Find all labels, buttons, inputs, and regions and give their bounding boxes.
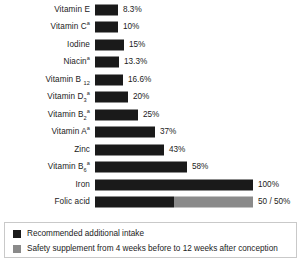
- bar: [95, 109, 138, 120]
- bar-segment-secondary: [174, 197, 253, 208]
- chart-row: Vitamin B 1216.6%: [0, 71, 305, 89]
- bar-segment-primary: [95, 22, 118, 33]
- category-label: Vitamin E: [0, 6, 90, 14]
- bar: [95, 39, 124, 50]
- bar-value-label: 25%: [143, 111, 159, 119]
- chart-row: Vitamin Aa37%: [0, 124, 305, 142]
- bar-segment-primary: [95, 74, 123, 85]
- bar: [95, 22, 118, 33]
- category-label-superscript: a: [87, 160, 90, 166]
- bar-value-label: 58%: [192, 163, 208, 171]
- category-label-superscript: a: [87, 55, 90, 61]
- category-label-subscript: 12: [84, 79, 90, 85]
- category-label-superscript: a: [87, 125, 90, 131]
- bar-value-label: 15%: [129, 41, 145, 49]
- category-label: Vitamin B2a: [0, 111, 90, 119]
- bar-value-label: 50 / 50%: [258, 198, 290, 206]
- bar-value-label: 37%: [160, 128, 176, 136]
- chart-row: Vitamin E8.3%: [0, 1, 305, 19]
- category-label-subscript: 2: [84, 114, 87, 120]
- bar-value-label: 16.6%: [128, 76, 151, 84]
- chart-row: Vitamin B6a58%: [0, 159, 305, 177]
- category-label-superscript: a: [87, 90, 90, 96]
- bar: [95, 127, 155, 138]
- category-label: Iron: [0, 181, 90, 189]
- category-label-superscript: a: [87, 108, 90, 114]
- chart-row: Iodine15%: [0, 36, 305, 54]
- bar-segment-primary: [95, 179, 253, 190]
- legend-label: Safety supplement from 4 weeks before to…: [27, 245, 278, 253]
- legend-swatch-primary: [13, 230, 21, 238]
- bar: [95, 162, 187, 173]
- bar-value-label: 20%: [133, 93, 149, 101]
- legend-swatch-secondary: [13, 245, 21, 253]
- bar: [95, 57, 119, 68]
- bar-chart: Vitamin E8.3%Vitamin Ca10%Iodine15%Niaci…: [0, 0, 305, 272]
- category-label: Iodine: [0, 41, 90, 49]
- category-label: Vitamin Aa: [0, 128, 90, 136]
- bar-segment-primary: [95, 197, 174, 208]
- category-label-subscript: 3: [84, 97, 87, 103]
- category-label: Niacina: [0, 58, 90, 66]
- category-label: Vitamin B6a: [0, 163, 90, 171]
- chart-row: Zinc43%: [0, 141, 305, 159]
- category-label: Folic acid: [0, 198, 90, 206]
- chart-legend: Recommended additional intakeSafety supp…: [4, 222, 297, 258]
- chart-row: Vitamin D3a20%: [0, 89, 305, 107]
- bar: [95, 92, 128, 103]
- legend-item: Recommended additional intake: [13, 227, 296, 241]
- category-label: Zinc: [0, 146, 90, 154]
- bar-segment-primary: [95, 144, 164, 155]
- bar-value-label: 8.3%: [123, 6, 142, 14]
- bar: [95, 74, 123, 85]
- bar-value-label: 43%: [169, 146, 185, 154]
- bar-segment-primary: [95, 127, 155, 138]
- chart-row: Folic acid50 / 50%: [0, 194, 305, 212]
- bar-segment-primary: [95, 109, 138, 120]
- bar: [95, 179, 253, 190]
- category-label: Vitamin Ca: [0, 23, 90, 31]
- chart-row: Vitamin Ca10%: [0, 19, 305, 37]
- chart-row: Iron100%: [0, 176, 305, 194]
- category-label-superscript: a: [87, 20, 90, 26]
- chart-row: Niacina13.3%: [0, 54, 305, 72]
- legend-item: Safety supplement from 4 weeks before to…: [13, 242, 296, 256]
- category-label: Vitamin D3a: [0, 93, 90, 101]
- bar-segment-primary: [95, 162, 187, 173]
- category-label: Vitamin B 12: [0, 76, 90, 84]
- chart-row: Vitamin B2a25%: [0, 106, 305, 124]
- bar-value-label: 13.3%: [124, 58, 147, 66]
- legend-label: Recommended additional intake: [27, 230, 144, 238]
- category-label-subscript: 6: [84, 167, 87, 173]
- bar: [95, 197, 253, 208]
- bar: [95, 144, 164, 155]
- bar-segment-primary: [95, 92, 128, 103]
- bar-value-label: 10%: [123, 23, 139, 31]
- bar-segment-primary: [95, 4, 118, 15]
- bar-segment-primary: [95, 57, 119, 68]
- chart-plot-area: Vitamin E8.3%Vitamin Ca10%Iodine15%Niaci…: [0, 0, 305, 214]
- bar-segment-primary: [95, 39, 124, 50]
- bar-value-label: 100%: [258, 181, 279, 189]
- bar: [95, 4, 118, 15]
